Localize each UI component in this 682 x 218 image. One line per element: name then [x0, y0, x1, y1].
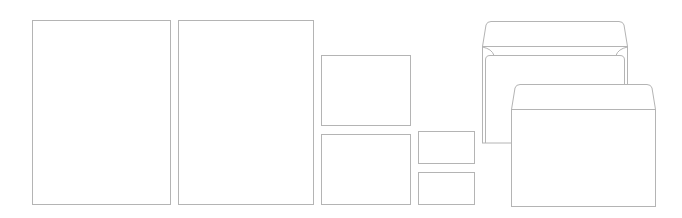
envelopes-illustration: [0, 0, 682, 218]
envelope-front: [512, 85, 656, 207]
